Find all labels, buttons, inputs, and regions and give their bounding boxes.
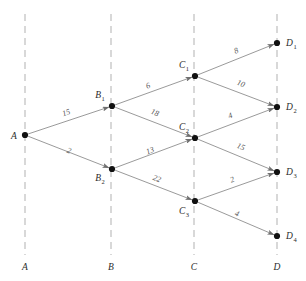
diagram-canvas: 152618132281041524 AB1B2C1C2C3D1D2D3D4 A… [0, 0, 306, 281]
edge-weight-c1-d1: 8 [233, 46, 240, 56]
node-b2[interactable] [109, 166, 115, 172]
edge-weight-b2-c2: 13 [145, 145, 156, 156]
edges-group [28, 44, 274, 234]
edge-c2-to-d2 [198, 108, 274, 137]
edge-weight-b1-c2: 18 [150, 107, 161, 118]
stage-label-a: A [21, 262, 28, 272]
edge-weight-b2-c3: 22 [152, 173, 163, 184]
node-label-d3: D3 [285, 167, 297, 179]
node-d3[interactable] [274, 169, 280, 175]
network-diagram: 152618132281041524 AB1B2C1C2C3D1D2D3D4 A… [0, 0, 306, 281]
stage-label-b: B [108, 262, 114, 272]
stage-lines-group [25, 14, 277, 255]
edge-weight-c3-d4: 4 [233, 209, 240, 219]
node-d1[interactable] [274, 40, 280, 46]
stage-label-d: D [273, 262, 281, 272]
node-labels-group: AB1B2C1C2C3D1D2D3D4 [10, 38, 297, 243]
edge-weight-b1-c1: 6 [145, 81, 152, 91]
edge-c3-to-d4 [198, 202, 274, 234]
edge-weight-c2-d3: 15 [236, 141, 247, 152]
node-label-d1: D1 [285, 38, 297, 50]
node-label-b2: B2 [95, 173, 105, 185]
edge-weight-c1-d2: 10 [236, 78, 247, 89]
edge-weight-a-b1: 15 [61, 107, 71, 118]
node-d4[interactable] [274, 233, 280, 239]
edge-b1-to-c1 [115, 77, 192, 105]
node-d2[interactable] [274, 104, 280, 110]
node-label-b1: B1 [95, 90, 105, 102]
node-label-d4: D4 [285, 231, 297, 243]
node-label-a: A [10, 131, 17, 141]
node-a[interactable] [22, 132, 28, 138]
node-label-d2: D2 [285, 102, 297, 114]
edge-weight-c2-d2: 4 [227, 111, 234, 121]
node-c1[interactable] [192, 73, 198, 79]
edge-weight-a-b2: 2 [65, 146, 72, 156]
edge-weight-c3-d3: 2 [229, 175, 236, 185]
edge-c1-to-d2 [198, 77, 274, 106]
node-label-c1: C1 [179, 60, 189, 72]
nodes-group [22, 40, 280, 239]
node-c3[interactable] [192, 198, 198, 204]
node-c2[interactable] [192, 135, 198, 141]
edge-c2-to-d3 [198, 139, 274, 170]
node-label-c3: C3 [179, 206, 189, 218]
stage-label-c: C [191, 262, 198, 272]
node-label-c2: C2 [179, 122, 189, 134]
stage-labels-group: ABCD [21, 262, 280, 272]
node-b1[interactable] [109, 103, 115, 109]
edge-c3-to-d3 [198, 173, 274, 200]
